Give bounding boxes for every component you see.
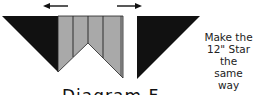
right-dark-triangle xyxy=(137,16,200,79)
gray-strip-unit xyxy=(58,16,123,78)
arrow-right-icon xyxy=(117,3,142,9)
left-dark-triangle xyxy=(2,16,58,72)
note-line-3: same way xyxy=(203,67,254,91)
diagram-caption: Diagram F xyxy=(62,86,159,95)
note-line-1: Make the xyxy=(203,31,254,43)
arrow-left-icon xyxy=(43,3,68,9)
note-line-2: 12" Star the xyxy=(203,43,254,67)
instruction-note: Make the 12" Star the same way xyxy=(203,31,254,91)
